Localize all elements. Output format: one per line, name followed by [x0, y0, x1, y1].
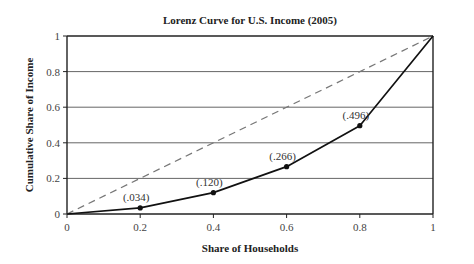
x-tick-label: 1 [430, 221, 436, 233]
x-tick-label: 0 [64, 221, 70, 233]
y-axis-label: Cumulative Share of Income [23, 58, 35, 193]
y-tick-label: 1 [55, 30, 61, 42]
y-tick-label: 0.8 [46, 66, 60, 78]
data-points [138, 123, 363, 210]
data-point [284, 164, 289, 169]
y-tick-label: 0.6 [46, 101, 60, 113]
x-axis-label: Share of Households [202, 242, 299, 254]
data-label: (.034) [123, 191, 150, 204]
equality-line [67, 36, 433, 214]
data-labels: (.034)(.120)(.266)(.496) [123, 109, 370, 204]
y-tick-labels: 00.20.40.60.81 [46, 30, 60, 220]
y-tick-label: 0 [55, 208, 61, 220]
x-tick-labels: 00.20.40.60.81 [64, 221, 436, 233]
data-point [211, 190, 216, 195]
axes [63, 36, 433, 218]
x-tick-label: 0.8 [353, 221, 367, 233]
y-tick-label: 0.2 [46, 172, 60, 184]
x-tick-label: 0.2 [133, 221, 147, 233]
data-point [138, 205, 143, 210]
chart-title: Lorenz Curve for U.S. Income (2005) [163, 14, 337, 27]
data-label: (.266) [269, 150, 296, 163]
data-point [357, 123, 362, 128]
data-label: (.120) [196, 176, 223, 189]
data-label: (.496) [343, 109, 370, 122]
x-tick-label: 0.4 [207, 221, 221, 233]
x-tick-label: 0.6 [280, 221, 294, 233]
gridlines [67, 36, 433, 178]
y-tick-label: 0.4 [46, 137, 60, 149]
lorenz-chart: Lorenz Curve for U.S. Income (2005) 00.2… [0, 0, 474, 264]
